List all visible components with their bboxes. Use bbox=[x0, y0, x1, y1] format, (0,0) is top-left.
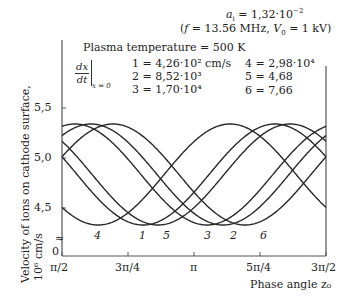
x-axis-label: Phase angle z₀ bbox=[250, 278, 331, 291]
y-tick-4-5: 4,5 bbox=[34, 201, 52, 214]
axis-break-icon: ≈ bbox=[55, 232, 64, 245]
y-axis-label-line1: Velocity of ions on cathode surface, bbox=[19, 43, 32, 283]
legend-item-1: 1 = 4,26·10² cm/s bbox=[132, 57, 231, 70]
curve-label-1: 1 bbox=[139, 229, 146, 242]
curve-1 bbox=[62, 124, 326, 225]
curve-label-6: 6 bbox=[260, 229, 267, 242]
curve-4 bbox=[62, 124, 326, 225]
curve-6 bbox=[62, 124, 326, 225]
plasma-temperature: Plasma temperature = 500 K bbox=[83, 41, 246, 54]
curve-label-2: 2 bbox=[230, 229, 237, 242]
y-tick-5-0: 5,0 bbox=[34, 151, 52, 164]
ai-annotation: ai = 1,32·10−2 bbox=[226, 7, 303, 23]
x-tick-3pi-4: 3π/4 bbox=[115, 261, 140, 274]
curve-5 bbox=[62, 124, 326, 225]
legend-item-2: 2 = 8,52·10³ bbox=[132, 70, 202, 83]
x-tick-3pi-2: 3π/2 bbox=[311, 261, 336, 274]
legend-item-4: 4 = 2,98·10⁴ bbox=[245, 57, 315, 70]
curve-label-4: 4 bbox=[94, 229, 101, 242]
legend-item-5: 5 = 4,68 bbox=[245, 70, 293, 83]
legend-header: dx dt x = 0 bbox=[75, 60, 111, 92]
legend-item-6: 6 = 7,66 bbox=[245, 84, 293, 97]
curve-label-5: 5 bbox=[163, 229, 170, 242]
y-tick-5-5: 5,5 bbox=[34, 101, 52, 114]
curves bbox=[62, 124, 326, 225]
conditions-annotation: (f = 13.56 MHz, V0 = 1 kV) bbox=[180, 22, 331, 37]
curve-2 bbox=[62, 124, 326, 225]
x-tick-pi-2: π/2 bbox=[50, 261, 68, 274]
curve-3 bbox=[62, 124, 326, 225]
curve-label-3: 3 bbox=[204, 229, 211, 242]
x-tick-pi: π bbox=[190, 261, 197, 274]
y-zero-label: 0 bbox=[52, 245, 59, 258]
x-tick-5pi-4: 5π/4 bbox=[246, 261, 271, 274]
legend-item-3: 3 = 1,70·10⁴ bbox=[132, 83, 202, 96]
